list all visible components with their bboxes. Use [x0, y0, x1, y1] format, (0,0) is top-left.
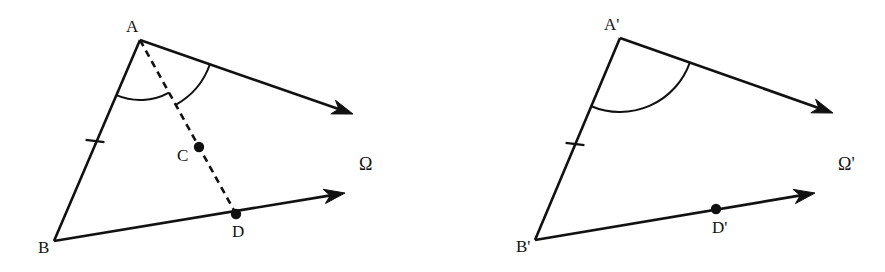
- label-omega-prime: Ω': [838, 155, 855, 173]
- tick-mark-AprimeBprime: [566, 143, 585, 145]
- label-B-prime: B': [516, 238, 530, 255]
- dashed-segment-AD: [140, 40, 236, 214]
- label-B: B: [38, 239, 49, 256]
- geometry-svg: [0, 0, 885, 272]
- tick-mark-AB: [86, 140, 105, 142]
- label-A: A: [126, 18, 138, 35]
- ray-B-lower-shaft: [54, 195, 332, 241]
- segment-AprimeBprime: [535, 38, 620, 240]
- ray-Bprime-lower-shaft: [535, 195, 802, 240]
- angle-arc-BAC-inner: [116, 93, 169, 100]
- ray-A-upper-shaft: [140, 40, 341, 110]
- left-figure-group: [54, 40, 353, 241]
- ray-Aprime-upper-shaft: [620, 38, 821, 109]
- point-Dprime: [711, 204, 721, 214]
- point-D: [231, 209, 241, 219]
- label-C: C: [177, 147, 188, 164]
- label-A-prime: A': [604, 16, 619, 33]
- geometry-figure-canvas: A B C D Ω A' B' D' Ω': [0, 0, 885, 272]
- point-C: [194, 142, 204, 152]
- right-figure-group: [535, 38, 833, 240]
- label-D: D: [232, 223, 244, 240]
- label-D-prime: D': [712, 219, 727, 236]
- angle-arc-CAray-outer: [176, 64, 210, 105]
- label-omega: Ω: [359, 155, 372, 173]
